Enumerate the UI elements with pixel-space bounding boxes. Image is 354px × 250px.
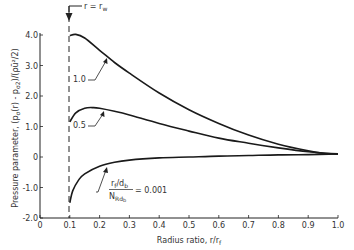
- y-tick-label: 2.0: [25, 92, 38, 101]
- y-tick-label: 3.0: [25, 62, 38, 71]
- x-tick-label: 0.3: [123, 221, 136, 230]
- curve-label-0-001: rf/db NRdb = 0.001: [109, 179, 167, 203]
- x-tick-label: 0.2: [93, 221, 106, 230]
- rw-label: r = rw: [84, 2, 107, 12]
- y-tick-label: -1.0: [22, 184, 38, 193]
- curve-1-arrow-icon: [103, 58, 108, 64]
- x-tick-label: 0.1: [63, 221, 76, 230]
- curve-05-arrow-icon: [100, 111, 105, 117]
- curve-1-leader: [88, 61, 106, 80]
- curve-1-0: [70, 34, 338, 154]
- curve-label-1-0: 1.0: [73, 75, 86, 84]
- x-tick-label: 0.8: [272, 221, 285, 230]
- y-tick-label: 0: [33, 153, 38, 162]
- x-tick-label: 0.4: [153, 221, 166, 230]
- x-tick-label: 0.6: [212, 221, 225, 230]
- svg-text:rf/db: rf/db: [111, 179, 128, 189]
- x-tick-label: 0: [37, 221, 42, 230]
- curve-label-0-5: 0.5: [73, 121, 86, 130]
- curves: [70, 34, 338, 202]
- y-axis-label: Pressure parameter, (pσ(r) - pσ2)/(ρū²/2…: [11, 48, 21, 207]
- y-tick-label: 1.0: [25, 123, 38, 132]
- chart-container: 00.10.20.30.40.50.60.70.80.91.0-2.0-1.00…: [0, 0, 354, 250]
- svg-text:NRdb: NRdb: [109, 192, 126, 203]
- curve-001-leader: [96, 170, 106, 192]
- y-tick-label: -2.0: [22, 214, 38, 223]
- curve-001-arrow-icon: [103, 167, 108, 173]
- curve-0-5: [70, 108, 338, 154]
- svg-text:= 0.001: = 0.001: [135, 186, 167, 195]
- x-tick-label: 1.0: [332, 221, 345, 230]
- x-axis-label: Radius ratio, r/rf: [157, 236, 222, 246]
- curve-05-leader: [88, 114, 103, 126]
- line-chart: 00.10.20.30.40.50.60.70.80.91.0-2.0-1.00…: [0, 0, 354, 250]
- rw-arrow-head-icon: [66, 13, 73, 21]
- x-tick-label: 0.5: [183, 221, 196, 230]
- x-tick-label: 0.7: [242, 221, 255, 230]
- x-tick-label: 0.9: [302, 221, 315, 230]
- annotations: r = rw 1.0 0.5 rf/db NRdb = 0.001 Radius…: [11, 2, 222, 246]
- y-tick-label: 4.0: [25, 31, 38, 40]
